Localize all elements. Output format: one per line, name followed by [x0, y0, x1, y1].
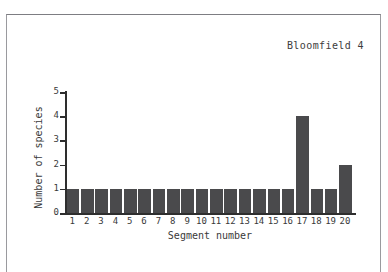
bar: [153, 189, 166, 213]
y-axis-tick-label: 3: [48, 134, 59, 144]
bar: [81, 189, 94, 213]
bar: [282, 189, 295, 213]
bar: [67, 189, 80, 213]
plot-area: [66, 92, 354, 213]
bar: [311, 189, 324, 213]
x-axis-line: [60, 213, 356, 215]
bar: [110, 189, 123, 213]
y-axis-tick-label: 4: [48, 110, 59, 120]
bar: [339, 165, 352, 213]
bar: [138, 189, 151, 213]
bar: [325, 189, 338, 213]
bar: [296, 116, 309, 213]
bar: [210, 189, 223, 213]
bar: [196, 189, 209, 213]
chart-title: Bloomfield 4: [287, 40, 364, 51]
y-axis-tick-label: 2: [48, 159, 59, 169]
y-axis-tick-label: 5: [48, 86, 59, 96]
x-axis-title: Segment number: [66, 230, 354, 241]
y-axis-tick: [60, 213, 66, 215]
y-axis-title: Number of species: [33, 98, 44, 218]
bar: [239, 189, 252, 213]
bar: [181, 189, 194, 213]
x-axis-tick-label: 20: [335, 216, 355, 226]
bar: [253, 189, 266, 213]
bar: [224, 189, 237, 213]
y-axis-tick-label: 0: [48, 207, 59, 217]
bar: [95, 189, 108, 213]
y-axis-tick-label: 1: [48, 183, 59, 193]
bar: [268, 189, 281, 213]
bar: [167, 189, 180, 213]
bar: [124, 189, 137, 213]
